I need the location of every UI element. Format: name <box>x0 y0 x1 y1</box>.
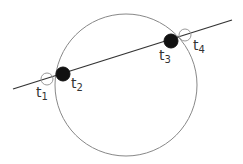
point-t2-label: t2 <box>71 75 83 93</box>
point-t3-marker <box>164 34 178 48</box>
point-t2-marker <box>56 67 70 81</box>
line-circle-intersection-diagram: t1t2t3t4 <box>0 0 243 164</box>
point-t3-label: t3 <box>159 47 171 65</box>
point-t4-label: t4 <box>193 37 205 55</box>
point-t1-label: t1 <box>36 84 48 102</box>
